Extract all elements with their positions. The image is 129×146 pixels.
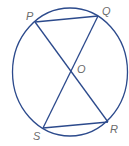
line-pr-through-o: [35, 22, 108, 122]
label-r: R: [110, 124, 118, 135]
line-qs-through-o: [43, 16, 98, 128]
label-o: O: [77, 64, 86, 75]
label-s: S: [33, 131, 40, 142]
label-p: P: [26, 11, 33, 22]
chord-sr: [43, 122, 108, 128]
label-q: Q: [102, 6, 111, 17]
chord-pq: [35, 16, 98, 22]
